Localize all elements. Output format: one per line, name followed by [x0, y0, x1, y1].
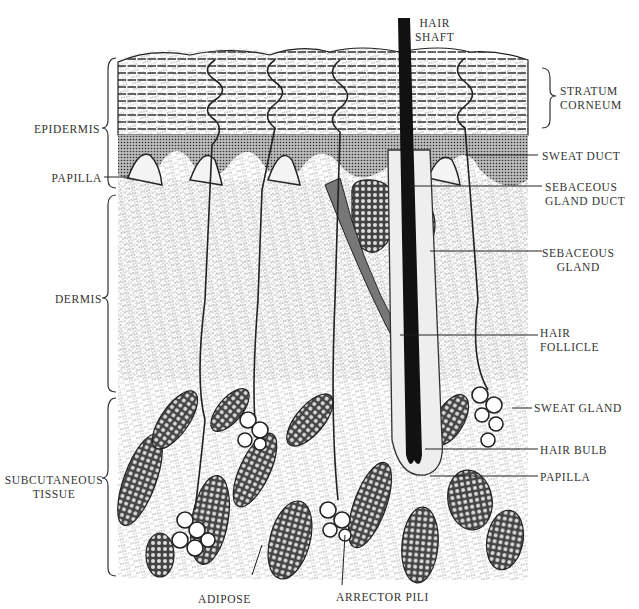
sebaceous-gland-line1: SEBACEOUS [542, 246, 615, 260]
papilla-right-text: PAPILLA [540, 471, 590, 483]
hair-shaft-line1: HAIR [415, 16, 454, 30]
label-sebaceous-gland: SEBACEOUS GLAND [542, 246, 615, 274]
label-stratum-corneum: STRATUM CORNEUM [560, 84, 622, 112]
sebaceous-gland-duct-line2: GLAND DUCT [545, 194, 625, 208]
label-dermis: DERMIS [40, 292, 102, 306]
subcutaneous-line2: TISSUE [2, 487, 106, 501]
adipose-text: ADIPOSE [198, 593, 251, 605]
label-hair-shaft: HAIR SHAFT [415, 16, 454, 44]
dermis-text: DERMIS [55, 293, 102, 305]
label-arrector-pili: ARRECTOR PILI [336, 590, 429, 604]
stratum-corneum-line2: CORNEUM [560, 98, 622, 112]
hair-follicle-line1: HAIR [540, 326, 599, 340]
label-hair-bulb: HAIR BULB [540, 443, 607, 457]
hair-shaft-line2: SHAFT [415, 30, 454, 44]
stratum-corneum-layer [118, 48, 528, 135]
papilla-left-text: PAPILLA [52, 172, 102, 184]
label-hair-follicle: HAIR FOLLICLE [540, 326, 599, 354]
sweat-gland-text: SWEAT GLAND [534, 402, 622, 414]
sweat-duct-text: SWEAT DUCT [542, 150, 620, 162]
label-sweat-duct: SWEAT DUCT [542, 149, 620, 163]
label-papilla-right: PAPILLA [540, 470, 590, 484]
label-subcutaneous-tissue: SUBCUTANEOUS TISSUE [2, 473, 106, 501]
arrector-pili-text: ARRECTOR PILI [336, 591, 429, 603]
epidermis-text: EPIDERMIS [34, 123, 100, 135]
subcutaneous-line1: SUBCUTANEOUS [2, 473, 106, 487]
label-epidermis: EPIDERMIS [34, 122, 100, 136]
dermis-texture [118, 180, 528, 380]
stratum-corneum-line1: STRATUM [560, 84, 622, 98]
hair-follicle-line2: FOLLICLE [540, 340, 599, 354]
sebaceous-gland-duct-line1: SEBACEOUS [545, 180, 625, 194]
label-papilla-left: PAPILLA [40, 171, 102, 185]
sebaceous-gland-line2: GLAND [542, 260, 615, 274]
label-sweat-gland: SWEAT GLAND [534, 401, 622, 415]
label-adipose: ADIPOSE [198, 592, 251, 606]
hair-bulb-text: HAIR BULB [540, 444, 607, 456]
label-sebaceous-gland-duct: SEBACEOUS GLAND DUCT [545, 180, 625, 208]
